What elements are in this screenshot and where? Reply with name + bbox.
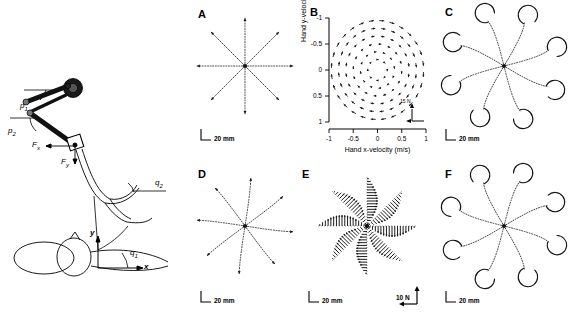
force-sample [364,227,365,228]
panel-b-force-scale-text: 15 N [400,98,411,104]
force-vector-head [369,62,371,64]
force-sample-head [349,216,351,218]
force-sample-head [388,235,390,237]
figure-root: p1 p2 Fx Fy q2 q1 y x A 20 mm B 10.50-0.… [0,0,572,322]
force-vector-head [374,95,376,97]
force-sample [360,227,363,230]
trajectory-hook [470,108,489,126]
trajectory-path [245,226,275,264]
panel-e-scalebar: 20 mm [308,290,343,303]
trajectory-path [504,180,521,226]
force-sample-head [376,203,378,205]
start-target [502,64,506,68]
label-q2: q2 [155,178,163,189]
trajectory-path [487,226,504,272]
panel-f-scalebar-text: 20 mm [459,297,480,304]
trajectory-path [504,66,548,87]
force-vector-head [384,76,386,78]
fx-arrowhead [46,144,51,148]
panel-f-scalebar: 20 mm [445,290,480,303]
force-sample-head [359,239,361,241]
torso-outline [14,242,74,274]
force-vector-head [360,62,362,64]
panel-f: F 20 mm [435,160,572,322]
trajectory-hook [546,192,564,211]
force-vector-head [383,61,385,63]
trajectory-hook [513,109,532,128]
panel-d-scalebar-text: 20 mm [214,297,235,304]
panel-d: D 20 mm [190,160,300,322]
force-sample-head [356,247,358,249]
trajectory-hook [441,75,460,94]
y-tick-label: 1 [318,118,322,125]
force-sample-head [405,231,407,233]
panel-e-forcefield [300,164,435,294]
force-sample [365,223,366,224]
label-fy: Fy [61,157,69,168]
force-sample-head [397,235,399,237]
force-sample-head [375,208,377,210]
panel-b: B 10.50-0.5-1 -1-0.500.51 15 N Hand y-ve… [300,0,435,160]
force-vector-head [338,62,340,64]
panel-c: C 20 mm [435,0,572,160]
forearm-outline-top [76,150,105,203]
force-sample [371,222,374,225]
force-sample-head [327,219,329,221]
robot-link-2 [30,113,72,143]
arm-segment-line-2 [98,226,128,250]
force-sample-head [335,216,337,218]
panel-b-ylabel: Hand y-velocity (m/s) [300,0,307,64]
trajectory-arrowhead [244,111,247,114]
force-sample-head [347,216,349,218]
force-sample [369,224,370,225]
trajectory-path [483,66,504,110]
force-vector-head [383,52,385,54]
trajectory-path [458,209,504,226]
force-sample [334,252,338,256]
trajectory-path [504,205,548,226]
panel-b-plot: 10.50-0.5-1 -1-0.500.51 [300,0,435,160]
robot-link-1 [26,86,68,102]
handle-center [73,143,77,147]
trajectory-path [504,226,525,270]
force-sample [368,230,371,233]
force-sample-head [338,215,340,217]
trajectory-path [245,32,279,66]
force-sample-head [333,216,335,218]
force-vector-head [370,77,372,79]
force-vector-head [379,43,381,45]
force-sample-head [357,256,359,258]
trajectory-arrowhead [197,219,200,222]
force-vector-head [393,76,395,78]
schematic-drawing [0,0,190,322]
force-vector-head [370,86,372,88]
panel-a-trajectories [190,4,300,134]
force-sample [334,191,335,192]
force-sample-head [399,234,401,236]
force-vector-head [382,20,384,22]
trajectory-path [245,196,283,226]
scalebar-mark-d [200,290,212,303]
scalebar-mark-c [445,128,457,141]
label-p2: p2 [8,126,16,137]
trajectory-path [460,226,504,247]
trajectory-path [215,188,245,226]
force-sample [357,228,361,232]
trajectory-path [504,22,525,66]
trajectory-path [504,49,550,66]
trajectory-hook [513,163,532,182]
force-sample-head [341,215,343,217]
p2-angle-arc [30,118,36,131]
force-sample-head [374,211,376,213]
panel-c-scalebar: 20 mm [445,128,480,141]
trajectory-arrowhead [244,18,247,21]
force-vector-head [387,83,389,85]
trajectory-arrowhead [290,230,293,233]
force-sample [400,193,401,194]
force-sample [373,220,377,224]
force-sample-head [380,233,382,235]
force-sample-head [377,231,379,233]
scalebar-mark-f [445,290,457,303]
trajectory-hook [518,268,537,286]
force-sample-head [360,236,362,238]
